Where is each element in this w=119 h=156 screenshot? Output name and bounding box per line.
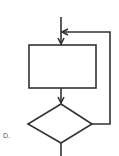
flowchart (0, 0, 119, 156)
decision-diamond (28, 104, 92, 143)
process-box (29, 45, 96, 88)
option-label: D. (3, 132, 10, 139)
